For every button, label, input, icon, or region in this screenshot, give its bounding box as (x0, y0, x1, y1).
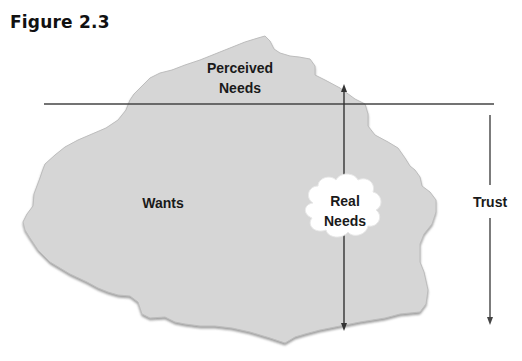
trust-arrow-down-icon (487, 317, 493, 325)
real-needs-label-2: Needs (324, 213, 366, 229)
real-needs-label: Real (330, 193, 360, 209)
wants-label: Wants (142, 195, 184, 211)
arrow-up-icon (341, 84, 347, 92)
perceived-needs-label: Perceived (207, 60, 273, 76)
arrow-down-icon (341, 323, 347, 331)
iceberg-diagram: Perceived Needs Wants Real Needs Trust (0, 0, 522, 361)
perceived-needs-label-2: Needs (219, 80, 261, 96)
trust-label: Trust (473, 194, 508, 210)
